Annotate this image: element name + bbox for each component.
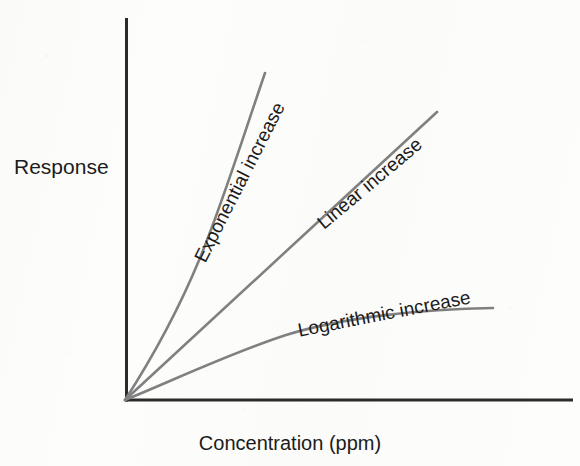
chart-figure: Response Concentration (ppm) Exponential…	[0, 0, 580, 466]
plot-area	[0, 0, 580, 466]
y-axis-title: Response	[14, 155, 109, 179]
x-axis-title: Concentration (ppm)	[0, 432, 580, 455]
